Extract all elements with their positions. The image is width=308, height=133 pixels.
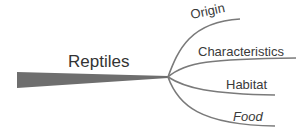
central-trunk: [17, 72, 168, 88]
branch-characteristics: Characteristics: [198, 45, 284, 58]
branch-food: Food: [233, 110, 263, 123]
central-topic: Reptiles: [68, 53, 129, 70]
branch-habitat: Habitat: [226, 78, 267, 91]
branch-line-characteristics: [168, 58, 296, 77]
mind-map: Reptiles Origin Characteristics Habitat …: [0, 0, 308, 133]
